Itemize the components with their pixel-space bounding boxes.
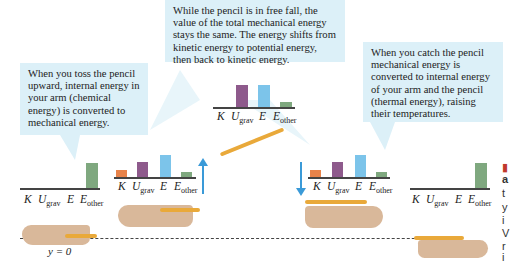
label-k: K	[412, 193, 420, 205]
bar-e	[355, 155, 366, 177]
pencil-1	[65, 234, 97, 238]
label-ugrav: Ugrav	[327, 180, 350, 195]
bar-ugrav	[236, 85, 248, 107]
side-text: a	[502, 172, 508, 186]
label-ugrav: Ugrav	[132, 180, 155, 195]
up-arrow-icon	[202, 164, 204, 194]
label-k: K	[313, 180, 321, 192]
label-e: E	[160, 180, 167, 192]
label-ugrav: Ugrav	[231, 110, 254, 125]
hand-3	[305, 206, 383, 228]
label-eother: Eother	[174, 180, 197, 195]
axis	[20, 188, 100, 190]
label-eother: Eother	[273, 110, 296, 125]
label-k: K	[217, 110, 225, 122]
bar-ugrav	[137, 162, 148, 177]
label-eother: Eother	[80, 193, 103, 208]
pencil-2	[160, 208, 200, 212]
label-e: E	[259, 110, 266, 122]
axis	[410, 188, 490, 190]
hand-4	[418, 240, 488, 258]
axis	[308, 177, 390, 179]
label-e: E	[455, 193, 462, 205]
side-text: V	[502, 226, 509, 240]
pencil-4	[414, 236, 464, 240]
label-eother: Eother	[468, 193, 491, 208]
bubble-catch: When you catch the pencil mechanical ene…	[363, 42, 503, 122]
y-zero-label: y = 0	[48, 245, 71, 257]
side-text: i	[502, 250, 504, 261]
arrowhead-down-icon	[296, 188, 306, 196]
pencil-3	[305, 200, 367, 204]
label-k: K	[118, 180, 126, 192]
axis	[114, 177, 196, 179]
side-text: i	[502, 213, 504, 227]
label-ugrav: Ugrav	[38, 193, 61, 208]
side-text: t	[502, 186, 505, 200]
bar-eother	[86, 163, 98, 188]
label-k: K	[24, 193, 32, 205]
label-e: E	[355, 180, 362, 192]
bar-e	[258, 85, 270, 107]
bar-k	[310, 170, 321, 177]
bar-e	[160, 155, 171, 177]
bar-ugrav	[332, 162, 343, 177]
arrowhead-up-icon	[198, 158, 208, 166]
bubble-free-fall: While the pencil is in free fall, the va…	[165, 0, 345, 62]
label-eother: Eother	[369, 180, 392, 195]
label-e: E	[67, 193, 74, 205]
down-arrow-icon	[300, 162, 302, 190]
bar-k	[116, 170, 127, 177]
label-ugrav: Ugrav	[426, 193, 449, 208]
bar-eother	[475, 163, 487, 188]
side-text: y	[502, 200, 508, 214]
axis	[213, 107, 295, 109]
